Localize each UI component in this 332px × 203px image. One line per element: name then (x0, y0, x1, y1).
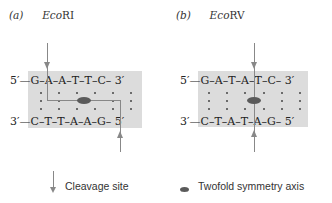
base: G (31, 74, 40, 87)
base: A (70, 115, 78, 128)
base: G (97, 115, 106, 128)
panel-b-enzyme-suffix: RV (229, 9, 244, 21)
legend-symmetry-label: Twofold symmetry axis (198, 180, 304, 192)
panel-a-letter: (a) (9, 9, 23, 21)
panel-a-bottom-arrow-icon (117, 131, 123, 138)
three-prime-end: 3′ (285, 74, 295, 87)
three-prime-end: 3′ (180, 115, 190, 128)
five-prime-end: 5′ (285, 115, 295, 128)
base: T (228, 74, 235, 87)
legend-cleavage-arrow-icon (50, 187, 56, 193)
panel-b-top-strand: 5′—G–A–T–A–T–C– 3′ (180, 74, 294, 87)
legend-symmetry-axis-icon (180, 187, 189, 192)
base: T (85, 74, 92, 87)
base: G (267, 115, 276, 128)
panel-a-bottom-strand: 3′—C–T–T–A–A–G– 5′ (10, 115, 124, 128)
base: T (44, 115, 51, 128)
base: A (215, 74, 223, 87)
panel-a-symmetry-axis-icon (77, 97, 91, 104)
base: C (267, 74, 275, 87)
restriction-enzyme-figure: (a) EcoRI 5′—G–A–A–T–T–C– 3′ 3′—C–T–T–A–… (0, 0, 332, 203)
panel-b-bottom-strand: 3′—C–T–A–T–A–G– 5′ (180, 115, 294, 128)
panel-a-top-arrow-icon (44, 62, 50, 69)
base: A (241, 74, 249, 87)
base: T (214, 115, 221, 128)
panel-b-letter: (b) (176, 9, 191, 21)
panel-a-enzyme-suffix: RI (62, 9, 74, 21)
base: G (201, 74, 210, 87)
base: T (255, 74, 262, 87)
base: C (201, 115, 209, 128)
base: A (45, 74, 53, 87)
panel-a-title: (a) EcoRI (9, 9, 74, 21)
base: C (31, 115, 39, 128)
base: T (57, 115, 64, 128)
base: A (84, 115, 92, 128)
panel-b-title: (b) EcoRV (176, 9, 245, 21)
base: T (72, 74, 79, 87)
three-prime-end: 3′ (10, 115, 20, 128)
panel-a-enzyme-prefix: Eco (42, 9, 62, 21)
base: T (241, 115, 248, 128)
three-prime-end: 3′ (115, 74, 125, 87)
base: C (97, 74, 105, 87)
five-prime-end: 5′ (10, 74, 20, 87)
panel-a-top-strand: 5′—G–A–A–T–T–C– 3′ (10, 74, 124, 87)
base: A (58, 74, 66, 87)
panel-b-top-arrow-icon (251, 62, 257, 69)
panel-b-bottom-arrow-icon (251, 130, 257, 137)
legend-cleavage-label: Cleavage site (65, 180, 129, 192)
panel-b-symmetry-axis-icon (247, 97, 261, 104)
five-prime-end: 5′ (180, 74, 190, 87)
panel-b-enzyme-prefix: Eco (210, 9, 230, 21)
